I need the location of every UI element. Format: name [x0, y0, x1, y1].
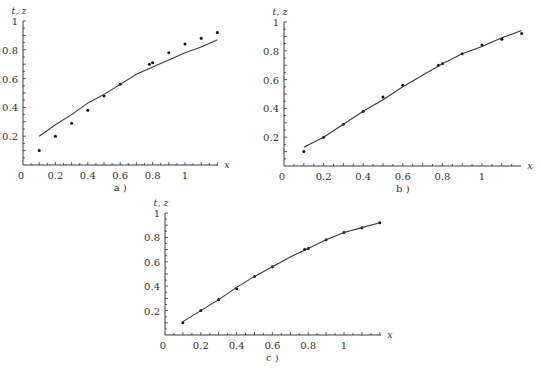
y-tick-label: 0.8 [144, 232, 160, 243]
data-points [38, 31, 219, 152]
x-tick-label: 0.2 [47, 170, 63, 181]
y-tick-label: 1 [273, 17, 279, 28]
data-point [520, 32, 523, 35]
y-axis-label: t, z [12, 5, 28, 16]
x-tick-label: 1 [479, 171, 485, 182]
fitted-curve [39, 40, 217, 137]
data-point [184, 43, 187, 46]
x-axis-label: x [224, 159, 230, 170]
y-tick-label: 1 [154, 208, 160, 219]
data-point [200, 37, 203, 40]
x-tick-label: 0.2 [316, 171, 332, 182]
x-tick-label: 0.4 [229, 340, 245, 351]
data-point [54, 135, 57, 138]
data-point [148, 63, 151, 66]
y-tick-label: 0.4 [144, 281, 160, 292]
x-tick-label: 0.6 [112, 170, 128, 181]
data-point [302, 150, 305, 153]
y-tick-label: 0.2 [263, 132, 279, 143]
x-tick-label: 0.8 [300, 340, 316, 351]
data-points [302, 32, 523, 153]
axes [284, 22, 521, 166]
y-axis-label: t, z [273, 6, 289, 17]
x-axis-label: x [387, 329, 393, 340]
fitted-curve [183, 223, 380, 322]
y-tick-label: 1 [12, 16, 18, 27]
x-tick-label: 0.6 [395, 171, 411, 182]
x-tick-label: 1 [182, 170, 188, 181]
y-tick-label: 0.8 [263, 46, 279, 57]
data-point [382, 95, 385, 98]
data-point [38, 149, 41, 152]
y-tick-label: 0.6 [144, 257, 160, 268]
chart-panel-c: 00.20.40.60.810.20.40.60.81t, zxc ) [140, 195, 405, 368]
data-points [181, 221, 381, 324]
x-axis-label: x [527, 160, 533, 171]
y-tick-label: 0.6 [2, 74, 18, 85]
data-point [86, 109, 89, 112]
x-tick-label: 0.4 [355, 171, 371, 182]
x-tick-label: 0.8 [434, 171, 450, 182]
x-tick-label: 0.8 [145, 170, 161, 181]
panel-caption: c ) [266, 352, 279, 363]
data-point [167, 51, 170, 54]
data-point [70, 122, 73, 125]
chart-panel-b: 00.20.40.60.810.20.40.60.81t, zxb ) [262, 0, 541, 200]
x-tick-label: 0.4 [80, 170, 96, 181]
chart-panel-a: 00.20.40.60.810.20.40.60.81t, zxa ) [0, 0, 242, 199]
data-point [216, 31, 219, 34]
x-tick-label: 0 [160, 340, 166, 351]
axes [23, 21, 218, 165]
data-point [151, 61, 154, 64]
y-tick-label: 0.2 [2, 131, 18, 142]
data-point [181, 321, 184, 324]
x-tick-label: 0 [279, 171, 285, 182]
y-tick-label: 0.2 [144, 306, 160, 317]
x-tick-label: 0.2 [193, 340, 209, 351]
y-axis-label: t, z [154, 197, 170, 208]
panel-caption: b ) [396, 183, 410, 194]
panel-caption: a ) [114, 182, 127, 193]
y-tick-label: 0.4 [263, 103, 279, 114]
fitted-curve [304, 31, 522, 148]
y-tick-label: 0.8 [2, 45, 18, 56]
x-tick-label: 0 [18, 170, 24, 181]
x-tick-label: 0.6 [264, 340, 280, 351]
y-tick-label: 0.6 [263, 75, 279, 86]
x-tick-label: 1 [341, 340, 347, 351]
y-tick-label: 0.4 [2, 102, 18, 113]
